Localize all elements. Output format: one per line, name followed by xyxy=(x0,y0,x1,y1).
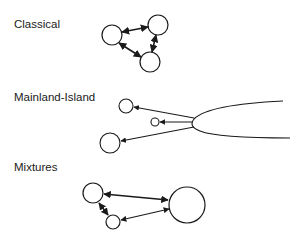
island-circle xyxy=(119,99,133,113)
patch-circle xyxy=(169,187,205,223)
metapopulation-diagram xyxy=(0,0,297,237)
classical-network xyxy=(102,15,168,72)
bidirectional-arrow xyxy=(122,27,148,32)
patch-circle xyxy=(102,25,122,45)
patch-circle xyxy=(140,52,160,72)
bidirectional-arrow xyxy=(99,203,108,215)
island-circle xyxy=(100,133,120,153)
patch-circle xyxy=(83,183,103,203)
mixtures-network xyxy=(83,183,205,229)
arrow xyxy=(121,127,194,141)
arrow xyxy=(134,107,194,118)
mainland-island-network xyxy=(100,99,290,153)
patch-circle xyxy=(148,15,168,35)
mainland-shape xyxy=(192,101,290,138)
bidirectional-arrow xyxy=(152,35,156,52)
bidirectional-arrow xyxy=(121,209,169,220)
island-circle xyxy=(151,118,159,126)
bidirectional-arrow xyxy=(104,194,168,200)
bidirectional-arrow xyxy=(119,43,141,57)
patch-circle xyxy=(106,215,120,229)
